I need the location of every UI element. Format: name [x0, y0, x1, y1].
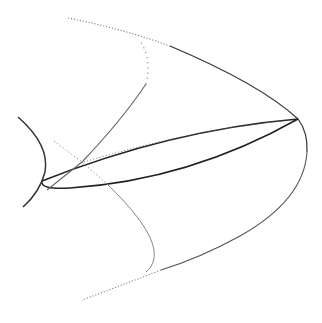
left-arc: [18, 117, 46, 207]
outer-parabola-lower: [161, 152, 307, 270]
tilted-ellipse: [42, 119, 298, 188]
outer-parabola-upper-dotted: [68, 18, 170, 46]
outer-parabola-upper: [170, 46, 307, 152]
diagram-svg: [0, 0, 322, 323]
inner-rising-curve-dotted: [141, 42, 148, 84]
inner-descending-curve: [106, 183, 154, 272]
outer-parabola-lower-dotted: [82, 270, 161, 300]
inner-descending-curve-dotted: [54, 141, 106, 183]
conic-diagram: [0, 0, 322, 323]
